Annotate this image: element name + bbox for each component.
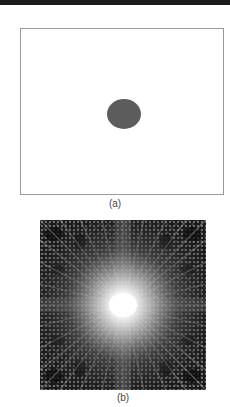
top-border-bar [0,0,230,5]
center-spot [107,99,141,129]
panel-b-diffraction-pattern [40,220,206,390]
panel-b-caption: (b) [8,392,230,403]
diffraction-pattern-graphic [40,220,206,390]
panel-a-frame [20,28,224,195]
panel-a-caption: (a) [0,198,230,209]
